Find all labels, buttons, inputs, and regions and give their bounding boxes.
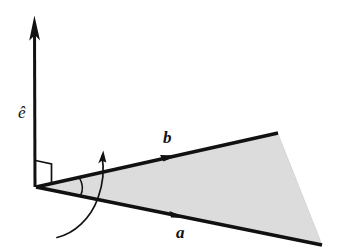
unit-normal-axis-shaft — [35, 28, 36, 187]
unit-normal-label: ê — [18, 103, 26, 122]
vector-b-label: b — [163, 128, 172, 147]
vector-a-label: a — [176, 223, 185, 242]
figure-root: ê b a — [0, 0, 340, 250]
vector-diagram: ê b a — [0, 0, 340, 250]
